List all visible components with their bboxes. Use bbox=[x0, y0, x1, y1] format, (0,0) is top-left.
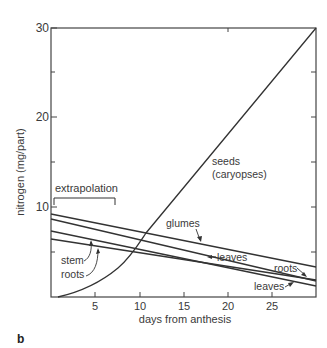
series-lines bbox=[51, 28, 316, 297]
y-tick-20: 20 bbox=[36, 110, 50, 124]
x-tick-10: 10 bbox=[134, 300, 146, 312]
panel-label: b bbox=[17, 332, 24, 346]
x-tick-20: 20 bbox=[222, 300, 234, 312]
x-tick-15: 15 bbox=[178, 300, 190, 312]
label-caryopses: (caryopses) bbox=[212, 168, 267, 180]
plot-frame bbox=[51, 28, 316, 297]
y-tick-10: 10 bbox=[36, 200, 50, 214]
label-roots-right: roots bbox=[274, 262, 297, 274]
chart: 30 20 10 5 10 15 20 25 days from anthesi… bbox=[0, 0, 327, 348]
annotation-extrapolation: extrapolation bbox=[55, 182, 118, 194]
x-axis-label: days from anthesis bbox=[139, 313, 232, 325]
x-tick-25: 25 bbox=[266, 300, 278, 312]
series-seeds bbox=[58, 28, 316, 297]
label-roots-left: roots bbox=[61, 268, 84, 280]
x-tick-5: 5 bbox=[92, 300, 98, 312]
y-tick-30: 30 bbox=[36, 21, 50, 35]
label-stem: stem bbox=[61, 254, 84, 266]
label-leaves-lower: leaves bbox=[254, 280, 284, 292]
x-ticks bbox=[95, 292, 272, 297]
label-leaves-upper: leaves bbox=[217, 251, 247, 263]
y-axis-label: nitrogen (mg/part) bbox=[14, 128, 26, 215]
extrapolation-bracket bbox=[54, 198, 115, 205]
x-tick-labels: 5 10 15 20 25 bbox=[92, 300, 278, 312]
label-seeds: seeds bbox=[212, 155, 240, 167]
label-glumes: glumes bbox=[166, 217, 200, 229]
y-tick-labels: 30 20 10 bbox=[36, 21, 50, 214]
